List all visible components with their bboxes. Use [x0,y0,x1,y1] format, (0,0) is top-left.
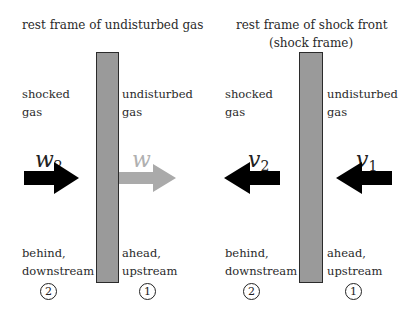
region-1-marker-left: 1 [139,283,156,300]
arrow-left-icon [336,162,392,194]
right-behind-label-2: downstream [225,262,297,280]
faded-arrow-right-icon [119,164,177,192]
right-ahead-label-2: upstream [327,262,382,280]
arrow-right-icon [24,162,80,194]
left-behind-label-2: downstream [22,262,94,280]
left-panel-title: rest frame of undisturbed gas [22,16,203,34]
right-ahead-label-1: ahead, [327,244,366,262]
shock-front-right [299,52,323,283]
region-2-marker-left: 2 [40,283,57,300]
shock-front-left [96,52,119,283]
left-ahead-label-1: ahead, [122,244,161,262]
right-panel-title-2: (shock frame) [269,34,353,52]
region-2-marker-right: 2 [243,283,260,300]
right-undisturbed-label-1: undisturbed [327,85,398,103]
right-shocked-label-2: gas [225,103,245,121]
right-panel-title-1: rest frame of shock front [236,16,388,34]
left-shocked-label-1: shocked [22,85,70,103]
left-undisturbed-label-1: undisturbed [122,85,193,103]
left-undisturbed-label-2: gas [122,103,142,121]
right-undisturbed-label-2: gas [327,103,347,121]
region-1-marker-right: 1 [345,283,362,300]
left-shocked-label-2: gas [22,103,42,121]
left-ahead-label-2: upstream [122,262,177,280]
arrow-left-icon [224,162,280,194]
right-behind-label-1: behind, [225,244,269,262]
right-shocked-label-1: shocked [225,85,273,103]
left-behind-label-1: behind, [22,244,66,262]
